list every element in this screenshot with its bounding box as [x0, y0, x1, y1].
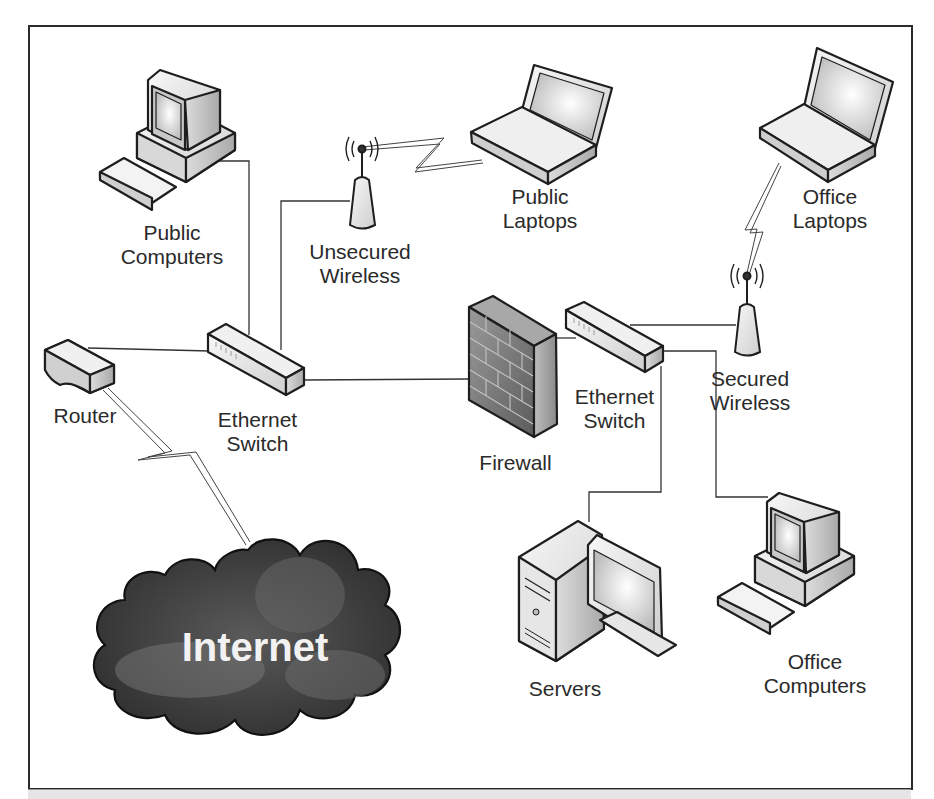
label-secured-wireless: Secured Wireless	[700, 367, 800, 415]
desktop-computer-icon	[718, 493, 854, 634]
label-internet: Internet	[160, 625, 350, 669]
wireless-access-point-icon	[731, 264, 763, 356]
label-servers: Servers	[520, 677, 610, 701]
edge-router-switch1	[88, 348, 210, 351]
label-public-laptops: Public Laptops	[495, 185, 585, 233]
label-firewall: Firewall	[468, 451, 563, 475]
connections	[88, 161, 768, 522]
desktop-computer-icon	[100, 70, 235, 210]
laptop-icon	[471, 65, 612, 184]
label-router: Router	[40, 404, 130, 428]
label-office-computers: Office Computers	[760, 650, 870, 698]
label-office-laptops: Office Laptops	[785, 185, 875, 233]
label-ethernet-switch-1: Ethernet Switch	[210, 408, 305, 456]
wireless-access-point-icon	[346, 137, 378, 229]
label-unsecured-wireless: Unsecured Wireless	[305, 240, 415, 288]
label-ethernet-switch-2: Ethernet Switch	[567, 385, 662, 433]
wireless-links	[103, 138, 781, 545]
ethernet-switch-icon	[566, 302, 663, 372]
laptop-icon	[760, 48, 893, 182]
firewall-icon	[469, 296, 557, 437]
server-icon	[519, 521, 676, 661]
ethernet-switch-icon	[208, 324, 304, 395]
edge-switch1-firewall	[303, 379, 470, 380]
label-public-computers: Public Computers	[117, 221, 227, 269]
